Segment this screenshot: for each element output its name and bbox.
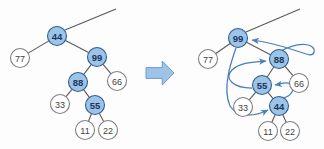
left-node-label-99: 99 bbox=[92, 52, 103, 63]
right-node-label-11: 11 bbox=[263, 127, 272, 137]
left-edge-88-55 bbox=[84, 90, 90, 98]
left-edge-44-77 bbox=[28, 41, 49, 53]
right-node-77[interactable]: 77 bbox=[199, 50, 218, 69]
left-edge-99-66 bbox=[103, 64, 111, 73]
right-edge-88-55 bbox=[267, 67, 274, 77]
left-node-label-77: 77 bbox=[15, 54, 25, 64]
right-node-11[interactable]: 11 bbox=[259, 122, 278, 141]
left-node-label-22: 22 bbox=[103, 126, 113, 136]
left-node-22[interactable]: 22 bbox=[99, 121, 118, 140]
left-node-55[interactable]: 55 bbox=[86, 96, 105, 115]
right-node-22[interactable]: 22 bbox=[281, 122, 300, 141]
right-node-44[interactable]: 44 bbox=[270, 97, 289, 116]
left-node-label-88: 88 bbox=[73, 77, 84, 88]
right-edge-88-66 bbox=[285, 66, 293, 75]
right-node-55[interactable]: 55 bbox=[253, 76, 272, 95]
right-edge-99-88 bbox=[246, 42, 270, 54]
left-node-88[interactable]: 88 bbox=[69, 73, 88, 92]
right-node-88[interactable]: 88 bbox=[270, 50, 289, 69]
right-block-arrow-icon bbox=[146, 61, 174, 85]
left-node-11[interactable]: 11 bbox=[76, 121, 95, 140]
left-node-99[interactable]: 99 bbox=[88, 48, 107, 67]
left-edge-55-11 bbox=[89, 114, 92, 121]
left-edge-55-22 bbox=[99, 113, 103, 121]
left-node-label-66: 66 bbox=[112, 77, 122, 87]
right-node-label-22: 22 bbox=[285, 127, 295, 137]
left-node-66[interactable]: 66 bbox=[108, 72, 127, 91]
tree-diagram-canvas: 447799886633551122 997788556633441122 bbox=[0, 0, 324, 149]
right-edge-44-22 bbox=[283, 115, 286, 123]
figure-root: 447799886633551122 997788556633441122 bbox=[0, 0, 324, 149]
left-node-label-11: 11 bbox=[80, 126, 89, 136]
right-node-label-99: 99 bbox=[233, 33, 244, 44]
right-node-33[interactable]: 33 bbox=[234, 98, 253, 117]
right-node-label-44: 44 bbox=[274, 101, 285, 112]
transition-block-arrow bbox=[146, 61, 174, 85]
left-root-stub-edge bbox=[65, 9, 116, 30]
right-root-stub-edge bbox=[246, 9, 300, 32]
left-edge-44-99 bbox=[65, 40, 88, 52]
right-edge-99-77 bbox=[216, 43, 230, 53]
left-node-44[interactable]: 44 bbox=[48, 27, 67, 46]
left-node-77[interactable]: 77 bbox=[11, 49, 30, 68]
right-edge-55-33 bbox=[249, 92, 256, 100]
right-tree: 997788556633441122 bbox=[199, 9, 315, 141]
left-edge-88-33 bbox=[66, 89, 72, 96]
right-node-label-66: 66 bbox=[294, 79, 304, 89]
left-node-label-33: 33 bbox=[55, 100, 65, 110]
left-node-label-44: 44 bbox=[52, 31, 63, 42]
left-edge-99-88 bbox=[84, 65, 92, 75]
right-node-label-77: 77 bbox=[203, 55, 213, 65]
left-tree: 447799886633551122 bbox=[11, 9, 127, 140]
right-node-label-88: 88 bbox=[274, 54, 285, 65]
right-edge-55-44 bbox=[268, 92, 273, 98]
right-edge-44-11 bbox=[272, 115, 275, 123]
right-node-label-55: 55 bbox=[257, 80, 268, 91]
left-node-label-55: 55 bbox=[90, 100, 101, 111]
right-node-66[interactable]: 66 bbox=[290, 74, 309, 93]
right-node-99[interactable]: 99 bbox=[229, 29, 248, 48]
left-node-33[interactable]: 33 bbox=[51, 95, 70, 114]
right-node-label-33: 33 bbox=[238, 103, 248, 113]
